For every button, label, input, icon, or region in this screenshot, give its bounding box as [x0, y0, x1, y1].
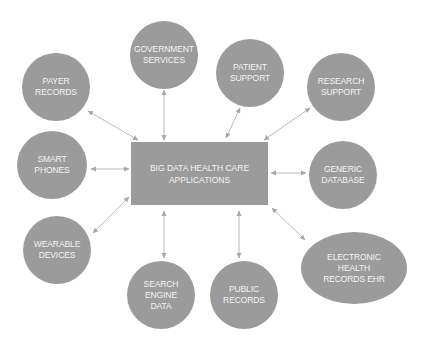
node-label: PATIENT SUPPORT — [227, 62, 273, 84]
node-label: GOVERNMENT SERVICES — [131, 44, 197, 66]
center-box-big-data-health-care-applications: BIG DATA HEALTH CARE APPLICATIONS — [131, 142, 268, 205]
node-research-support: RESEARCH SUPPORT — [307, 53, 375, 121]
arrow-payer-records — [88, 111, 138, 140]
node-public-records: PUBLIC RECORDS — [210, 261, 278, 329]
node-label: ELECTRONIC HEALTH RECORDS EHR — [320, 252, 388, 285]
arrow-electronic-health-records-ehr — [272, 208, 305, 240]
node-electronic-health-records-ehr: ELECTRONIC HEALTH RECORDS EHR — [301, 232, 407, 304]
arrow-wearable-devices — [93, 197, 129, 233]
center-box-label: BIG DATA HEALTH CARE APPLICATIONS — [150, 162, 249, 186]
node-payer-records: PAYER RECORDS — [22, 53, 90, 121]
arrow-patient-support — [226, 108, 240, 138]
node-generic-database: GENERIC DATABASE — [309, 141, 377, 209]
node-search-engine-data: SEARCH ENGINE DATA — [127, 261, 195, 329]
node-label: SMART PHONES — [31, 154, 72, 176]
arrow-research-support — [264, 108, 310, 140]
node-label: WEARABLE DEVICES — [31, 239, 83, 261]
node-label: PUBLIC RECORDS — [220, 284, 268, 306]
node-wearable-devices: WEARABLE DEVICES — [23, 216, 91, 284]
node-label: SEARCH ENGINE DATA — [141, 279, 182, 312]
node-patient-support: PATIENT SUPPORT — [216, 39, 284, 107]
node-label: GENERIC DATABASE — [318, 164, 367, 186]
node-smart-phones: SMART PHONES — [17, 131, 87, 199]
big-data-health-care-diagram: BIG DATA HEALTH CARE APPLICATIONS PAYER … — [0, 0, 423, 342]
node-label: PAYER RECORDS — [32, 76, 80, 98]
node-government-services: GOVERNMENT SERVICES — [130, 21, 198, 89]
node-label: RESEARCH SUPPORT — [315, 76, 367, 98]
